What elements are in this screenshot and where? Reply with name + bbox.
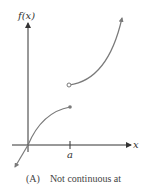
tick-label-a: a	[67, 149, 73, 160]
closed-point-icon	[68, 105, 72, 109]
open-point-icon	[67, 83, 71, 87]
left-branch-tail	[15, 145, 28, 167]
right-branch-curve	[69, 18, 122, 85]
x-axis-label: x	[133, 139, 139, 150]
left-branch-curve	[28, 107, 70, 145]
figure-caption: (A)Not continuous at	[0, 173, 154, 184]
y-axis-label: f(x)	[17, 10, 35, 21]
caption-tag: (A)	[26, 173, 40, 184]
function-graph: f(x) x a	[0, 0, 154, 188]
caption-text: Not continuous at	[50, 173, 121, 184]
